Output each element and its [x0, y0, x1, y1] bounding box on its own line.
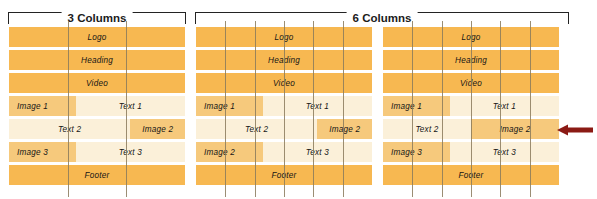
bracket-label-6-columns: 6 Columns — [347, 12, 418, 24]
wireframe-text-cell: Text 1 — [76, 96, 185, 116]
bracket-3-columns: 3 Columns — [8, 12, 186, 24]
wireframe-panel-6-columns-a: LogoHeadingVideoImage 1Text 1Text 2Image… — [196, 27, 372, 191]
wireframe-image-cell: Image 3 — [383, 142, 450, 162]
wireframe-row: Logo — [383, 27, 559, 47]
wireframe-row: Heading — [9, 50, 185, 70]
wireframe-cell-label: Image 3 — [9, 148, 48, 157]
wireframe-cell-label: Image 3 — [383, 148, 422, 157]
wireframe-row: Image 2Text 3 — [196, 142, 372, 162]
wireframe-row: Heading — [196, 50, 372, 70]
wireframe-image-cell: Image 3 — [9, 142, 76, 162]
wireframe-text-cell: Text 1 — [263, 96, 372, 116]
wireframe-cell-label: Image 1 — [196, 102, 235, 111]
wireframe-row: Logo — [9, 27, 185, 47]
wireframe-rows: LogoHeadingVideoImage 1Text 1Text 2Image… — [9, 27, 185, 191]
wireframe-rows: LogoHeadingVideoImage 1Text 1Text 2Image… — [196, 27, 372, 191]
wireframe-cell-label: Image 2 — [130, 125, 185, 134]
wireframe-row-label: Footer — [383, 171, 559, 180]
wireframe-cell-label: Text 1 — [263, 102, 372, 111]
wireframe-row: Heading — [383, 50, 559, 70]
wireframe-image-cell: Image 2 — [471, 119, 559, 139]
wireframe-row-label: Heading — [383, 56, 559, 65]
wireframe-row: Footer — [9, 165, 185, 185]
wireframe-cell-label: Text 3 — [76, 148, 185, 157]
wireframe-cell-label: Image 2 — [196, 148, 235, 157]
wireframe-text-cell: Text 3 — [263, 142, 372, 162]
wireframe-cell-label: Image 1 — [383, 102, 422, 111]
wireframe-image-cell: Image 2 — [317, 119, 372, 139]
wireframe-row: Image 1Text 1 — [9, 96, 185, 116]
wireframe-row-label: Heading — [196, 56, 372, 65]
bracket-label-3-columns: 3 Columns — [62, 12, 133, 24]
wireframe-row-label: Video — [9, 79, 185, 88]
wireframe-row-label: Logo — [196, 33, 372, 42]
wireframe-image-cell: Image 1 — [383, 96, 450, 116]
wireframe-row: Video — [196, 73, 372, 93]
callout-arrow-icon — [557, 123, 593, 137]
wireframe-row: Footer — [383, 165, 559, 185]
wireframe-row: Text 2Image 2 — [9, 119, 185, 139]
wireframe-text-cell: Text 2 — [383, 119, 471, 139]
wireframe-row-label: Footer — [9, 171, 185, 180]
wireframe-text-cell: Text 2 — [196, 119, 317, 139]
wireframe-cell-label: Image 1 — [9, 102, 48, 111]
wireframe-image-cell: Image 1 — [196, 96, 263, 116]
wireframe-rows: LogoHeadingVideoImage 1Text 1Text 2Image… — [383, 27, 559, 191]
wireframe-cell-label: Image 2 — [471, 125, 559, 134]
wireframe-row-label: Video — [383, 79, 559, 88]
wireframe-text-cell: Text 3 — [450, 142, 559, 162]
wireframe-cell-label: Text 1 — [76, 102, 185, 111]
wireframe-row-label: Footer — [196, 171, 372, 180]
wireframe-image-cell: Image 2 — [130, 119, 185, 139]
wireframe-row: Video — [9, 73, 185, 93]
wireframe-row-label: Video — [196, 79, 372, 88]
bracket-6-columns: 6 Columns — [195, 12, 569, 24]
wireframe-row: Text 2Image 2 — [196, 119, 372, 139]
wireframe-row: Image 1Text 1 — [196, 96, 372, 116]
wireframe-image-cell: Image 1 — [9, 96, 76, 116]
wireframe-cell-label: Text 2 — [196, 125, 317, 134]
wireframe-row: Logo — [196, 27, 372, 47]
wireframe-text-cell: Text 1 — [450, 96, 559, 116]
wireframe-row-label: Logo — [9, 33, 185, 42]
wireframe-row: Image 3Text 3 — [9, 142, 185, 162]
wireframe-cell-label: Text 3 — [450, 148, 559, 157]
wireframe-cell-label: Text 2 — [383, 125, 471, 134]
wireframe-row-label: Logo — [383, 33, 559, 42]
wireframe-cell-label: Text 3 — [263, 148, 372, 157]
wireframe-row: Video — [383, 73, 559, 93]
wireframe-row: Image 1Text 1 — [383, 96, 559, 116]
clipped-caption-sliver — [0, 0, 597, 6]
wireframe-cell-label: Text 2 — [9, 125, 130, 134]
wireframe-row: Image 3Text 3 — [383, 142, 559, 162]
wireframe-cell-label: Text 1 — [450, 102, 559, 111]
wireframe-row-label: Heading — [9, 56, 185, 65]
wireframe-row: Text 2Image 2 — [383, 119, 559, 139]
wireframe-text-cell: Text 3 — [76, 142, 185, 162]
wireframe-row: Footer — [196, 165, 372, 185]
wireframe-panel-3-columns: LogoHeadingVideoImage 1Text 1Text 2Image… — [9, 27, 185, 191]
wireframe-image-cell: Image 2 — [196, 142, 263, 162]
wireframe-cell-label: Image 2 — [317, 125, 372, 134]
wireframe-panel-6-columns-b: LogoHeadingVideoImage 1Text 1Text 2Image… — [383, 27, 559, 191]
wireframe-text-cell: Text 2 — [9, 119, 130, 139]
diagram-canvas: 3 Columns 6 Columns LogoHeadingVideoImag… — [0, 0, 597, 199]
